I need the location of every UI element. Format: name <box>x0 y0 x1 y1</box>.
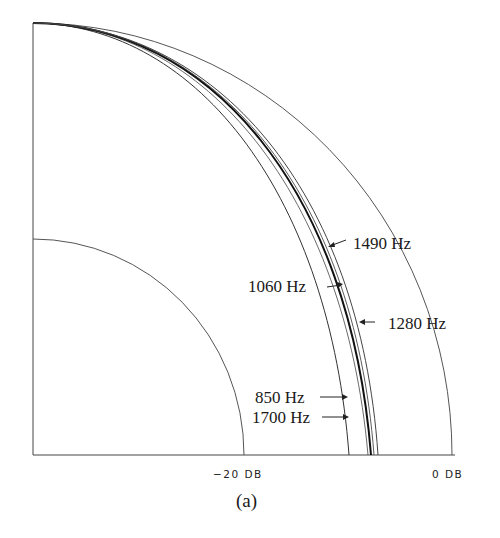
curve-1700hz <box>33 23 371 455</box>
curve-1490hz <box>33 23 374 455</box>
figure-caption: (a) <box>236 490 257 512</box>
label-1700hz: 1700 Hz <box>252 408 311 427</box>
arc-minus20db <box>33 239 244 455</box>
arrowhead-850hz <box>342 394 348 400</box>
arrowhead-1280hz <box>359 319 365 325</box>
label-850hz: 850 Hz <box>255 388 305 407</box>
label-1060hz: 1060 Hz <box>248 277 307 296</box>
label-1490hz: 1490 Hz <box>353 234 412 253</box>
tick-label-minus20db: −20 DB <box>213 468 263 480</box>
label-1280hz: 1280 Hz <box>388 314 447 333</box>
polar-response-chart: 1490 Hz 1060 Hz 1280 Hz 850 Hz 1700 Hz −… <box>0 0 500 538</box>
curve-1060hz <box>33 23 368 455</box>
curve-1280hz <box>33 23 378 455</box>
tick-label-0db: 0 DB <box>432 468 463 480</box>
